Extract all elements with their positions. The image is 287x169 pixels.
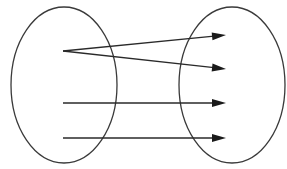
arrowhead-icon xyxy=(212,63,226,71)
mapping-arrow xyxy=(63,134,226,142)
mapping-arrow xyxy=(63,99,226,107)
arrow-shaft xyxy=(63,51,214,68)
mapping-arrow xyxy=(63,32,226,51)
arrowhead-icon xyxy=(212,99,226,107)
sets-layer xyxy=(11,7,285,163)
mapping-diagram xyxy=(0,0,287,169)
mapping-arrow xyxy=(63,51,226,71)
arrows-layer xyxy=(63,32,226,142)
domain-set-oval xyxy=(11,7,117,163)
arrow-shaft xyxy=(63,36,214,51)
arrowhead-icon xyxy=(212,32,226,40)
codomain-set-oval xyxy=(179,7,285,163)
arrowhead-icon xyxy=(212,134,226,142)
